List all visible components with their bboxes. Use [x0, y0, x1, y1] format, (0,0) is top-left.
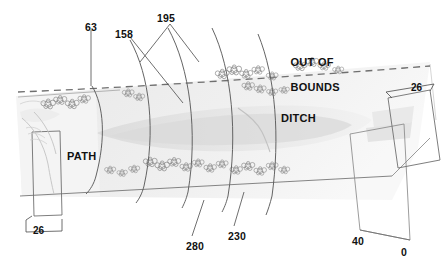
golf-hole-diagram: 63 158 195 280 230 40 0 26 26 OUT OF BOU… [0, 0, 448, 265]
green-dimension-bracket [26, 216, 62, 232]
left-ground-wash [16, 92, 100, 196]
leader-280 [192, 200, 204, 236]
hole-layout-drawing [0, 0, 448, 265]
leader-195b [170, 24, 199, 62]
leader-195a [140, 24, 170, 62]
